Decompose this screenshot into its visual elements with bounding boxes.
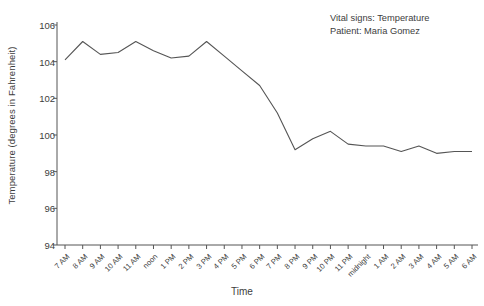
plot-area [0,0,484,306]
chart-annotation: Vital signs: Temperature Patient: Maria … [330,12,429,37]
annotation-line-vital-signs: Vital signs: Temperature [330,12,429,25]
x-axis-title: Time [0,286,484,297]
x-axis-ticks [65,245,472,249]
annotation-line-patient: Patient: Maria Gomez [330,25,429,38]
temperature-line-chart: Temperature (degrees in Fahrenheit) 9496… [0,0,484,306]
temperature-series-line [65,42,472,154]
y-axis-ticks [53,25,57,245]
